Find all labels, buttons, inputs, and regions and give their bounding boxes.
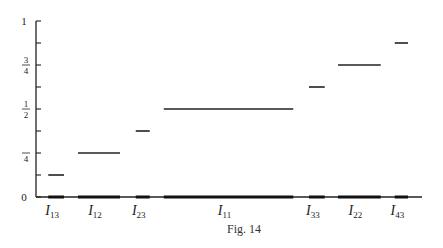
category-label-I12: I12	[87, 203, 102, 220]
category-label-I13: I13	[44, 203, 59, 220]
category-label-subscript: 33	[311, 210, 321, 220]
fraction-denominator: 4	[24, 154, 29, 164]
category-label-subscript: 22	[353, 210, 362, 220]
y-tick-label: 1	[21, 15, 27, 27]
fraction-denominator: 4	[24, 66, 29, 76]
y-tick-fraction: 12	[22, 99, 30, 120]
y-tick-label: 0	[21, 191, 27, 203]
category-labels: I13I12I23I11I33I22I43	[44, 203, 404, 220]
category-label-I11: I11	[217, 203, 231, 220]
chart: 0412341 I13I12I23I11I33I22I43	[0, 0, 443, 248]
fraction-denominator: 2	[24, 110, 29, 120]
figure-caption: Fig. 14	[227, 222, 261, 237]
category-label-subscript: 23	[137, 210, 147, 220]
category-label-I23: I23	[131, 203, 146, 220]
y-tick-fraction: 4	[22, 153, 30, 164]
category-label-I43: I43	[390, 203, 405, 220]
category-label-subscript: 11	[223, 210, 232, 220]
category-label-subscript: 13	[50, 210, 60, 220]
segments	[48, 43, 408, 197]
category-label-subscript: 12	[93, 210, 102, 220]
category-label-I22: I22	[348, 203, 363, 220]
y-tick-fraction: 34	[22, 55, 30, 76]
y-ticks: 0412341	[21, 15, 41, 203]
fraction-numerator: 3	[24, 55, 29, 65]
category-label-subscript: 43	[395, 210, 405, 220]
category-label-I33: I33	[305, 203, 320, 220]
fraction-numerator: 1	[24, 99, 29, 109]
